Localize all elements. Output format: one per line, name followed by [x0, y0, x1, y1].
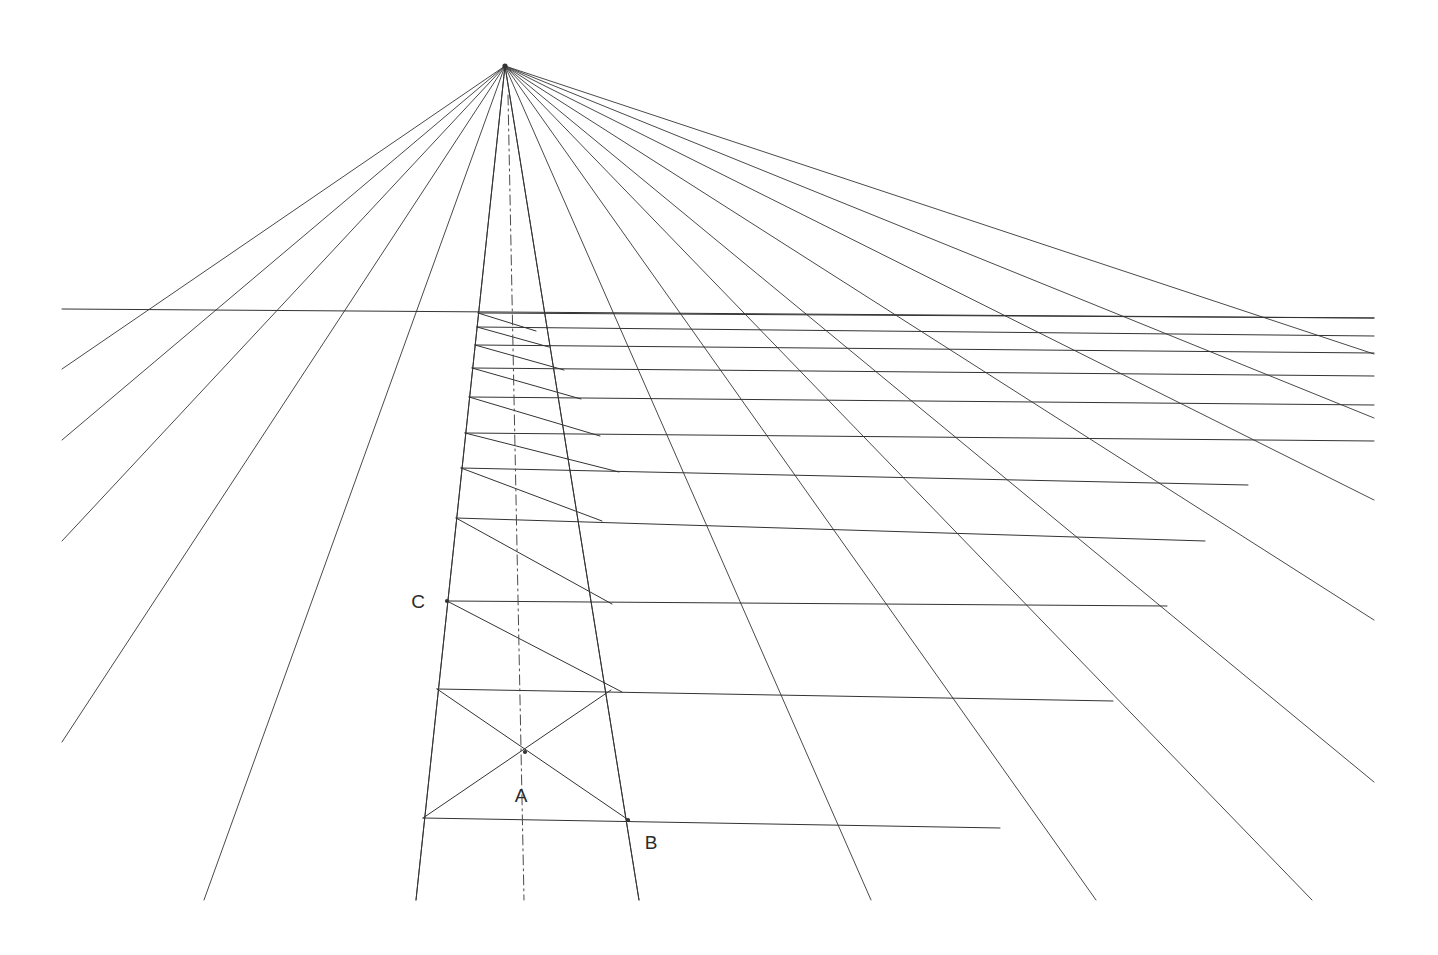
t-07 — [456, 518, 1205, 541]
d-07 — [461, 468, 602, 521]
t-08 — [447, 601, 1167, 606]
ray-9 — [505, 66, 1096, 900]
d-09 — [447, 601, 622, 692]
ray-15 — [505, 66, 1374, 354]
t-05 — [465, 433, 1374, 441]
d-05 — [469, 397, 600, 436]
t-00 — [478, 313, 1374, 318]
edge-left-vertical — [416, 66, 505, 900]
d-04 — [472, 368, 581, 399]
t-09 — [437, 689, 1113, 701]
ray-1 — [62, 66, 505, 369]
ray-10 — [505, 66, 1312, 900]
ray-12 — [505, 66, 1374, 620]
label-c: C — [411, 591, 425, 612]
label-a: A — [515, 785, 528, 806]
label-b: B — [645, 832, 658, 853]
t-02 — [475, 345, 1374, 353]
d-06 — [465, 433, 619, 472]
t-03 — [472, 368, 1374, 376]
node-vanishing-point — [502, 63, 507, 68]
d-01 — [478, 313, 536, 331]
edge-right-vertical — [505, 66, 639, 900]
marked-point-group — [445, 63, 630, 822]
perspective-grid-svg: ABC — [0, 0, 1438, 955]
ray-14 — [505, 66, 1374, 418]
ray-4 — [62, 66, 505, 742]
center-axis-group — [508, 95, 524, 900]
ray-8 — [505, 66, 871, 900]
d-10 — [437, 689, 630, 821]
node-b — [626, 818, 630, 822]
d-08 — [456, 518, 612, 604]
ray-2 — [62, 66, 505, 440]
ray-11 — [505, 66, 1374, 782]
perspective-drawing-canvas: ABC — [0, 0, 1438, 955]
t-04 — [469, 397, 1374, 405]
t-06 — [461, 468, 1248, 485]
center-dash-dot-axis — [508, 95, 524, 900]
ray-5 — [204, 66, 505, 900]
node-a — [523, 750, 527, 754]
ray-3 — [62, 66, 505, 541]
node-c — [445, 599, 449, 603]
diagonal-construction-group — [423, 313, 630, 821]
t-10 — [423, 818, 1000, 828]
point-label-group: ABC — [411, 591, 657, 853]
